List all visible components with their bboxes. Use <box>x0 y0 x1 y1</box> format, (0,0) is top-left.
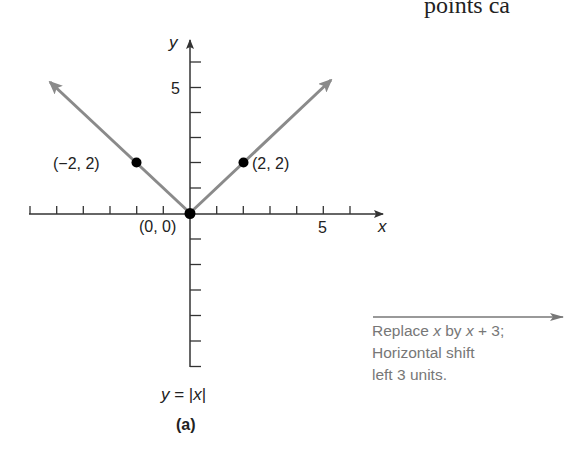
transform-caption-line3: left 3 units. <box>372 364 447 386</box>
transform-caption-line1: Replace x by x + 3; <box>372 320 504 342</box>
point-origin <box>185 208 196 219</box>
point-neg2-2 <box>132 158 142 168</box>
panel-label: (a) <box>176 416 196 433</box>
x-axis-label: x <box>377 217 387 236</box>
transform-caption-line2: Horizontal shift <box>372 342 475 364</box>
point-label-origin: (0, 0) <box>139 218 176 235</box>
graph-abs-x: y x 5 5 (−2, 2) (2, 2) (0, 0) y = |x| (a… <box>0 0 565 460</box>
y-tick-label-5: 5 <box>171 80 180 97</box>
y-axis-label: y <box>168 33 179 52</box>
equation-label: y = |x| <box>160 385 206 404</box>
point-label-2-2: (2, 2) <box>252 155 289 172</box>
point-label-neg2-2: (−2, 2) <box>53 155 100 172</box>
x-tick-label-5: 5 <box>318 219 327 236</box>
x-axis <box>29 206 383 214</box>
point-2-2 <box>239 158 249 168</box>
